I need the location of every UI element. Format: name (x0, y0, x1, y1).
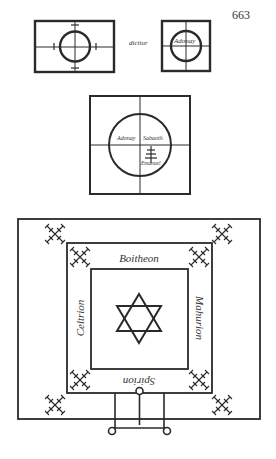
cross-icon (212, 395, 232, 415)
label-sabaoth: Sabaoth (143, 135, 163, 141)
label-mahurion: Mahurion (194, 295, 206, 341)
label-spirion: Spirion (122, 376, 155, 388)
figure-middle: Adonay Sabaoth Emanuel (0, 85, 276, 195)
connector-word: dicitur (129, 39, 148, 47)
cross-icon (70, 247, 90, 267)
label-adonay: Adonay (116, 135, 136, 141)
rect-circle-diagram-right (162, 21, 210, 71)
cross-icon (189, 370, 209, 390)
figure-top: dicitur Adonay (0, 0, 276, 85)
middle-square (67, 243, 212, 393)
cross-icon (45, 395, 65, 415)
inner-square (91, 269, 188, 369)
label-boitheon: Boitheon (119, 252, 159, 264)
label-celtrion: Celtrion (74, 299, 86, 336)
cross-icon (212, 224, 232, 244)
adonay-label: Adonay (173, 37, 196, 45)
handle-structure (109, 388, 171, 435)
rect-circle-diagram-left (35, 21, 114, 72)
figure-bottom: Boitheon Celtrion Mahurion Spirion (0, 200, 276, 459)
label-emanuel: Emanuel (140, 160, 161, 166)
cross-icon (45, 224, 65, 244)
cross-icon (70, 370, 90, 390)
cross-icon (189, 247, 209, 267)
hexagram-icon (117, 294, 161, 343)
